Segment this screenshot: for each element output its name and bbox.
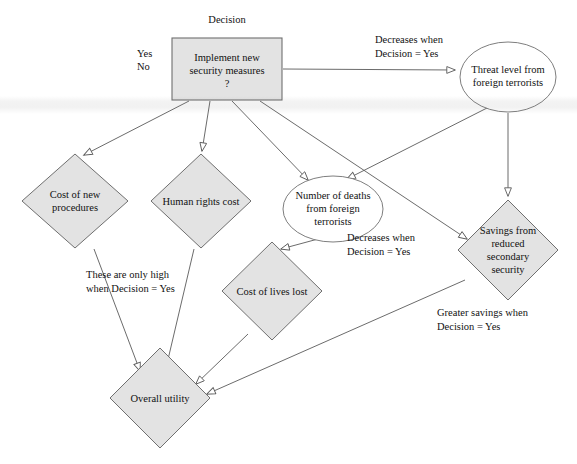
- influence-diagram: [0, 0, 577, 464]
- edge-deaths-to-cost-of-lives-lost: [281, 239, 318, 249]
- annotation-deaths-decrease: Decreases when Decision = Yes: [347, 231, 415, 258]
- edge-lives-lost-to-overall-utility: [196, 334, 248, 384]
- annotation-costs-high: These are only high when Decision = Yes: [86, 268, 175, 295]
- decision-option-yes: Yes: [137, 47, 152, 61]
- decision-caption: Decision: [178, 13, 276, 27]
- diagram-canvas: Implement new security measures ? Threat…: [0, 0, 577, 464]
- annotation-threat-decrease: Decreases when Decision = Yes: [375, 33, 443, 60]
- node-layer: [22, 38, 558, 448]
- edge-decision-to-number-of-deaths: [232, 101, 308, 180]
- node-cost-new-procedures[interactable]: [22, 154, 128, 248]
- edge-decision-to-threat-level: [283, 69, 455, 70]
- annotation-savings-greater: Greater savings when Decision = Yes: [437, 306, 528, 333]
- node-savings-reduced-security[interactable]: [458, 200, 558, 300]
- node-decision[interactable]: [172, 38, 282, 100]
- node-human-rights-cost[interactable]: [151, 154, 251, 248]
- edge-threat-to-number-of-deaths: [347, 108, 487, 179]
- node-cost-of-lives-lost[interactable]: [222, 242, 322, 340]
- edge-decision-to-human-rights-cost: [202, 101, 210, 151]
- node-threat-level[interactable]: [460, 42, 556, 112]
- node-overall-utility[interactable]: [110, 348, 210, 448]
- decision-option-no: No: [137, 60, 150, 74]
- edge-decision-to-cost-new-procedures: [84, 101, 189, 155]
- edge-human-rights-to-overall-utility: [166, 249, 194, 368]
